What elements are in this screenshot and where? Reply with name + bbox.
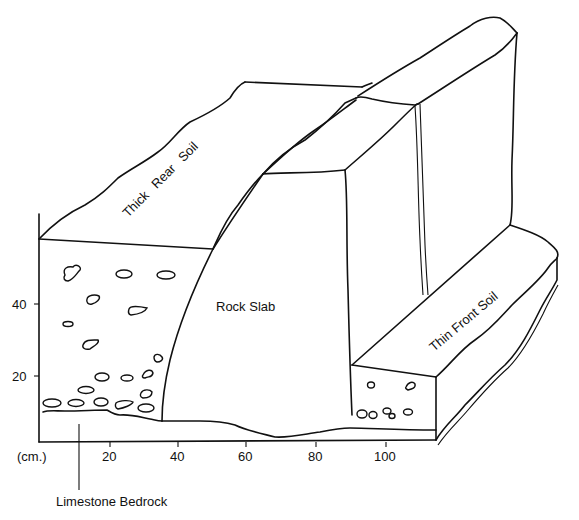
thick-rear-soil-block: [39, 82, 362, 249]
thin-front-soil-label: Thin Front Soil: [426, 288, 500, 354]
y-tick-label: 40: [12, 297, 26, 312]
soil-profile-diagram: 40 20 (cm.) 20 40 60 80 100 Thick Rear S…: [0, 0, 579, 520]
limestone-bedrock-label: Limestone Bedrock: [56, 494, 168, 509]
stones-rear: [43, 265, 175, 412]
x-tick-label: 80: [308, 449, 322, 464]
x-axis-unit: (cm.): [17, 449, 47, 464]
rock-slab-block: [162, 17, 517, 421]
y-axis: 40 20: [12, 297, 39, 384]
stones-front: [357, 382, 415, 419]
x-tick-label: 100: [374, 449, 396, 464]
x-tick-label: 40: [170, 449, 184, 464]
y-tick-label: 20: [12, 369, 26, 384]
x-axis: (cm.) 20 40 60 80 100: [17, 442, 396, 464]
x-tick-label: 60: [238, 449, 252, 464]
rock-slab-label: Rock Slab: [216, 299, 275, 314]
x-tick-label: 20: [102, 449, 116, 464]
